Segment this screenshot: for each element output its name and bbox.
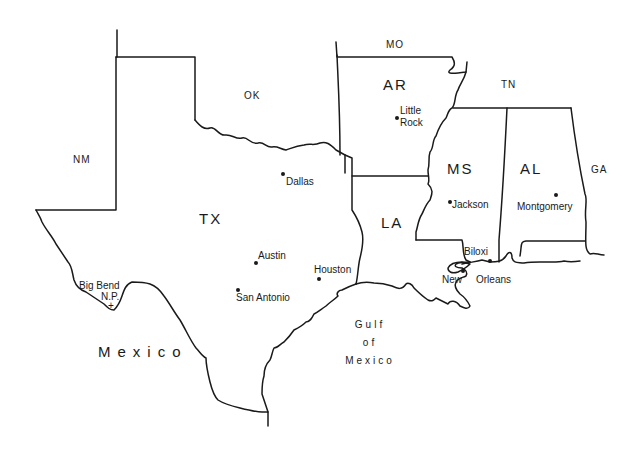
city-label-dallas: Dallas	[286, 177, 314, 187]
ok-ar-border	[337, 55, 340, 155]
state-label-tx: TX	[199, 211, 222, 226]
state-label-ga: GA	[591, 165, 607, 175]
state-label-nm: NM	[73, 155, 91, 165]
big-bend-cross-icon: +	[108, 301, 114, 311]
city-label-jackson: Jackson	[452, 200, 489, 210]
montgomery-marker-icon	[554, 193, 558, 197]
little-rock-marker-icon	[395, 116, 399, 120]
city-label-little-rock-line1: Little	[400, 106, 421, 116]
biloxi-marker-icon	[488, 259, 492, 263]
state-label-al: AL	[520, 161, 542, 176]
mississippi-river-border	[416, 72, 466, 240]
gulf-line1: Gulf	[340, 320, 400, 330]
ms-south-border	[416, 240, 470, 262]
ms-al-border	[499, 108, 507, 262]
ok-tx-panhandle-border	[116, 57, 195, 120]
city-label-new-orleans-line1: New	[442, 275, 462, 285]
dallas-marker-icon	[281, 172, 285, 176]
state-label-ar: AR	[383, 77, 408, 92]
rio-grande-border	[36, 210, 268, 426]
nm-tx-border	[36, 30, 117, 210]
red-river-border	[195, 120, 345, 173]
city-label-montgomery: Montgomery	[517, 202, 573, 212]
map-container: NM OK MO AR TN TX LA MS AL GA Dallas Lit…	[0, 0, 636, 452]
gulf-line2: of	[340, 338, 400, 348]
gulf-line3: Mexico	[340, 356, 400, 366]
region-label-gulf-of-mexico: Gulf of Mexico	[340, 320, 400, 366]
region-label-mexico: Mexico	[98, 344, 188, 359]
state-label-tn: TN	[501, 80, 516, 90]
la-coast	[356, 262, 470, 308]
state-label-la: LA	[381, 215, 403, 230]
al-ga-border	[571, 108, 604, 255]
austin-marker-icon	[254, 261, 258, 265]
state-label-ms: MS	[447, 161, 474, 176]
city-label-san-antonio: San Antonio	[236, 293, 290, 303]
city-label-biloxi: Biloxi	[464, 247, 488, 257]
al-south-border	[520, 241, 585, 256]
state-label-ok: OK	[244, 91, 260, 101]
city-label-houston: Houston	[314, 265, 351, 275]
new-orleans-marker-icon	[461, 269, 465, 273]
city-label-little-rock-line2: Rock	[400, 118, 423, 128]
city-label-austin: Austin	[258, 251, 286, 261]
state-borders	[0, 0, 636, 452]
houston-marker-icon	[317, 277, 321, 281]
state-label-mo: MO	[386, 40, 404, 50]
landmark-label-big-bend: Big Bend	[79, 281, 120, 291]
city-label-new-orleans-line2: Orleans	[476, 275, 511, 285]
